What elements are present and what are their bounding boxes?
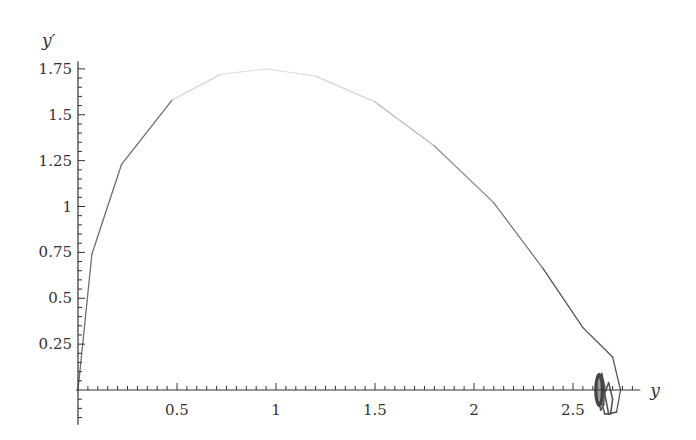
curve-segment	[617, 390, 621, 412]
y-tick-label: 1.25	[39, 152, 72, 170]
curve-segment	[583, 328, 613, 357]
y-tick-label: 1.75	[39, 60, 72, 78]
curve-segment	[494, 203, 544, 269]
y-tick-label: 0.75	[39, 243, 72, 261]
y-tick-label: 0.25	[39, 335, 72, 353]
curve-segment	[609, 383, 613, 400]
curve-layer	[78, 69, 621, 414]
curve-segment	[375, 102, 434, 146]
curve-segment	[266, 69, 316, 76]
curve-segment	[92, 164, 122, 254]
axes: 0.511.522.5 0.250.50.7511.251.51.75 y y′	[39, 30, 661, 425]
curve-segment	[605, 394, 609, 414]
y-axis-label: y′	[41, 30, 56, 50]
y-tick-label: 0.5	[48, 289, 72, 307]
y-tick-label: 1	[62, 198, 72, 216]
x-ticks: 0.511.522.5	[88, 383, 633, 419]
x-tick-label: 2	[469, 401, 479, 419]
curve-segment	[543, 269, 583, 328]
x-tick-label: 0.5	[165, 401, 189, 419]
curve-segment	[611, 399, 613, 414]
x-tick-label: 1	[271, 401, 281, 419]
curve-segment	[78, 254, 92, 390]
x-tick-label: 1.5	[363, 401, 387, 419]
curve-segment	[316, 76, 375, 102]
curve-segment	[434, 146, 493, 203]
curve-segment	[122, 100, 172, 164]
curve-segment	[172, 74, 221, 100]
y-tick-label: 1.5	[48, 106, 72, 124]
phase-plot: 0.511.522.5 0.250.50.7511.251.51.75 y y′	[0, 0, 696, 440]
curve-segment	[613, 357, 621, 390]
x-tick-label: 2.5	[561, 401, 585, 419]
x-axis-label: y	[649, 380, 660, 400]
curve-segment	[221, 69, 267, 75]
